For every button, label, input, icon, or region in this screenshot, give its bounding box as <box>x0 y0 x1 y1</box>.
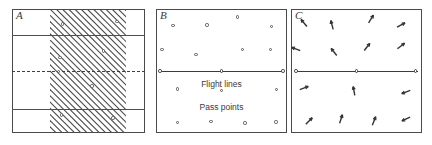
pass-point-marker <box>194 53 197 56</box>
overlap-marker <box>90 84 93 87</box>
pass-point-marker <box>209 120 212 123</box>
displacement-vector <box>332 25 333 26</box>
displacement-vector <box>304 23 305 24</box>
displacement-vector <box>354 91 355 92</box>
panel-b-label: B <box>160 10 167 21</box>
center-dashed-line <box>12 71 145 72</box>
flight-line-node <box>220 69 224 73</box>
flight-line-node <box>158 69 162 73</box>
pass-point-marker <box>160 48 163 51</box>
pass-point-marker <box>236 15 239 18</box>
overlap-marker <box>111 116 114 119</box>
overlap-marker <box>61 22 64 25</box>
displacement-vector <box>371 19 372 20</box>
displacement-vector <box>334 52 335 53</box>
displacement-vector <box>304 88 305 89</box>
displacement-vector <box>401 46 402 47</box>
displacement-vector <box>406 119 407 120</box>
panel-c: C <box>291 9 422 133</box>
flight-line-node <box>294 69 298 73</box>
flight-line-node <box>414 69 418 73</box>
displacement-vector <box>374 121 375 122</box>
panel-b: B Flight linesPass points <box>156 9 287 133</box>
pass-point-marker <box>176 87 179 90</box>
displacement-vector <box>341 119 342 120</box>
flight-strip-line <box>12 109 145 110</box>
flight-line-node <box>281 69 285 73</box>
displacement-vector <box>367 47 368 48</box>
flight-line-node <box>355 69 359 73</box>
panel-a: A <box>12 9 145 133</box>
pass-point-marker <box>220 89 223 92</box>
pass-points-caption: Pass points <box>200 103 244 112</box>
displacement-vector <box>309 121 310 122</box>
pass-point-marker <box>243 121 246 124</box>
displacement-vector <box>296 49 297 50</box>
flight-lines-caption: Flight lines <box>201 80 242 89</box>
panel-a-label: A <box>16 10 23 21</box>
displacement-vector <box>406 92 407 93</box>
overlap-marker <box>115 20 118 23</box>
pass-point-marker <box>270 25 273 28</box>
overlap-marker <box>58 56 61 59</box>
flight-strip-line <box>12 35 145 36</box>
displacement-vector <box>401 25 402 26</box>
pass-point-marker <box>205 23 208 26</box>
figure-container: A B Flight linesPass points C <box>0 0 432 145</box>
overlap-marker <box>60 113 63 116</box>
pass-point-marker <box>274 120 277 123</box>
